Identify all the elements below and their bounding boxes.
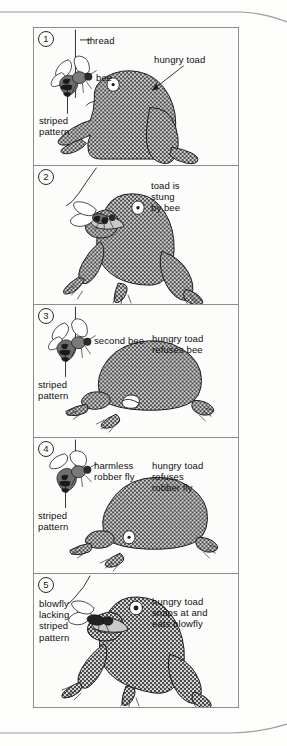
figure-panel-strip: 1 <box>33 27 239 708</box>
label-panel2-caption: toad is stung by bee <box>151 180 180 214</box>
step-number-4: 4 <box>38 441 54 457</box>
label-panel4-caption: hungry toad refuses robber fly <box>152 460 203 494</box>
panel-2: 2 <box>34 166 238 305</box>
robber-fly-illustration <box>50 451 97 493</box>
panel-3: 3 <box>34 305 238 438</box>
label-striped-pattern-4: striped pattern <box>38 510 68 532</box>
second-bee-illustration <box>48 319 95 362</box>
label-second-bee: second bee <box>94 335 144 346</box>
label-hungry-toad: hungry toad <box>154 54 205 65</box>
bee-illustration <box>51 56 96 97</box>
panel-2-artwork <box>34 166 238 304</box>
panel-4-artwork <box>34 438 238 573</box>
panel-5: 5 <box>34 574 238 707</box>
step-number-3: 3 <box>38 308 54 324</box>
label-blowfly: blowfly lacking striped pattern <box>39 598 69 643</box>
step-number-2: 2 <box>38 169 54 185</box>
panel-4: 4 <box>34 438 238 574</box>
panel-3-artwork <box>34 305 238 437</box>
label-striped-pattern: striped pattern <box>39 115 69 137</box>
panel-1-artwork <box>34 28 238 165</box>
label-panel5-caption: hungry toad snaps at and eats blowfly <box>152 596 208 630</box>
step-number-5: 5 <box>38 577 54 593</box>
label-bee: bee <box>96 72 112 83</box>
page-scan-rule-top <box>0 8 287 24</box>
label-thread: thread <box>87 35 115 46</box>
label-striped-pattern-3: striped pattern <box>38 379 68 401</box>
panel-1: 1 <box>34 28 238 166</box>
step-number-1: 1 <box>38 31 54 47</box>
label-panel3-caption: hungry toad refuses bee <box>152 333 203 355</box>
page-scan-rule-bottom <box>0 722 287 738</box>
label-robber-fly: harmless robber fly <box>94 460 135 482</box>
